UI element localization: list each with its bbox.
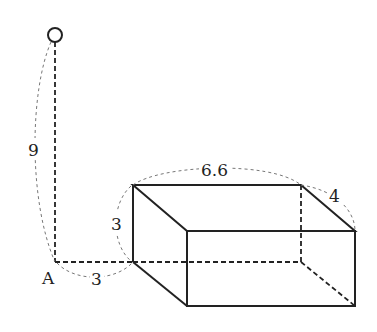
box-depth-label: 4 [329,186,340,206]
box-height-label: 3 [111,214,122,234]
box-left-bottom-depth [133,262,187,306]
point-a-label: A [41,268,55,288]
distance-a-label: 3 [91,269,102,289]
diagram-canvas: 9 A 3 3 6.6 4 [0,0,377,332]
pole-height-label: 9 [28,140,39,160]
box-front-face [187,231,355,306]
box-length-label: 6.6 [201,160,228,180]
box-and-pole-figure: 9 A 3 3 6.6 4 [0,0,377,332]
box-hidden-bottom-right-depth [301,262,355,306]
box-top-face [133,185,355,231]
pole-top-circle [48,28,62,42]
